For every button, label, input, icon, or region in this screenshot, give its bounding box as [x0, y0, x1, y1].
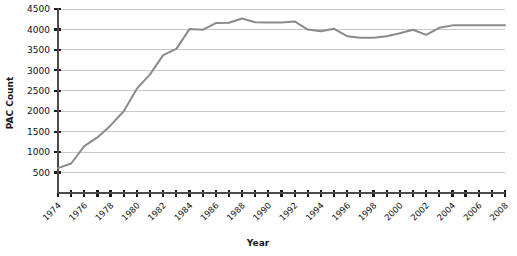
y-tick-label: 1000 — [27, 147, 50, 157]
plot-area-background — [58, 9, 505, 193]
chart-container: 50010001500200025003000350040004500 1974… — [0, 0, 517, 256]
y-axis-title: PAC Count — [5, 76, 15, 129]
y-tick-label: 3000 — [27, 66, 50, 76]
y-tick-label: 3500 — [27, 45, 50, 55]
y-tick-label: 2500 — [27, 86, 50, 96]
y-tick-label: 4500 — [27, 4, 50, 14]
y-tick-label: 2000 — [27, 106, 50, 116]
y-tick-label: 1500 — [27, 127, 50, 137]
y-tick-label: 4000 — [27, 25, 50, 35]
x-axis-title: Year — [246, 238, 270, 248]
line-chart: 50010001500200025003000350040004500 1974… — [0, 0, 517, 256]
y-tick-label: 500 — [33, 168, 50, 178]
y-axis-tick-labels: 50010001500200025003000350040004500 — [27, 4, 50, 178]
